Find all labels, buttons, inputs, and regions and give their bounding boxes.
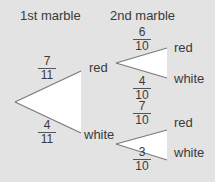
numerator: 7 (35, 56, 59, 67)
denominator: 10 (130, 41, 154, 52)
probability-tree-diagram: 1st marble 2nd marble 7 11 4 11 red whit… (0, 0, 215, 182)
numerator: 7 (130, 101, 154, 112)
outcome-1st-white: white (84, 127, 114, 142)
outcome-white-white: white (174, 145, 204, 160)
outcome-red-white: white (174, 71, 204, 86)
prob-red-red: 6 10 (130, 27, 154, 52)
prob-white-red: 7 10 (130, 101, 154, 126)
header-1st-marble: 1st marble (20, 8, 81, 23)
denominator: 11 (35, 70, 59, 81)
outcome-white-red: red (174, 115, 193, 130)
prob-1st-red: 7 11 (35, 56, 59, 81)
numerator: 4 (35, 120, 59, 131)
numerator: 3 (130, 147, 154, 158)
prob-1st-white: 4 11 (35, 120, 59, 145)
outcome-red-red: red (174, 40, 193, 55)
prob-red-white: 4 10 (130, 76, 154, 101)
denominator: 10 (130, 161, 154, 172)
numerator: 4 (130, 76, 154, 87)
header-2nd-marble: 2nd marble (110, 8, 175, 23)
numerator: 6 (130, 27, 154, 38)
denominator: 11 (35, 134, 59, 145)
denominator: 10 (130, 115, 154, 126)
outcome-1st-red: red (89, 60, 108, 75)
prob-white-white: 3 10 (130, 147, 154, 172)
